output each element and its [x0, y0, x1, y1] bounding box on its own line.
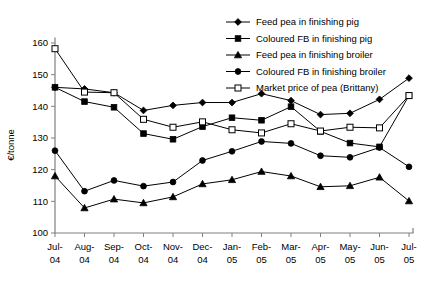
y-tick-label: 100 — [32, 227, 48, 238]
data-point-diamond — [376, 96, 383, 103]
y-tick-label: 150 — [32, 69, 48, 80]
data-point-open-square — [406, 93, 412, 99]
data-point-open-square — [200, 119, 206, 125]
data-point-circle — [141, 183, 147, 189]
line-chart: 100110120130140150160 Jul-04Aug-04Sep-04… — [0, 0, 429, 285]
x-tick-label: Dec-04 — [192, 241, 212, 265]
data-point-square — [229, 115, 235, 121]
data-point-open-square — [82, 89, 88, 95]
series-0 — [52, 75, 413, 118]
data-point-circle — [82, 188, 88, 194]
x-tick-label: May-05 — [339, 241, 360, 265]
y-tick-label: 160 — [32, 37, 48, 48]
x-tick-label: Oct-04 — [135, 241, 153, 265]
data-point-square — [235, 36, 241, 42]
data-point-diamond — [229, 99, 236, 106]
data-point-open-square — [52, 46, 58, 52]
legend-label: Market price of pea (Brittany) — [256, 82, 379, 93]
x-tick-label: Jan-05 — [223, 241, 241, 265]
data-point-open-square — [318, 128, 324, 134]
legend-item-4: Market price of pea (Brittany) — [226, 82, 379, 93]
legend-label: Feed pea in finishing broiler — [256, 49, 373, 60]
data-point-triangle — [110, 196, 117, 202]
data-point-circle — [259, 139, 265, 145]
data-point-triangle — [51, 172, 58, 178]
y-axis-title: €/tonne — [5, 129, 16, 161]
series-2 — [51, 168, 412, 211]
x-tick-label: Apr-05 — [312, 241, 330, 265]
data-point-open-square — [141, 116, 147, 122]
y-tick-label: 130 — [32, 132, 48, 143]
data-point-circle — [318, 153, 324, 159]
data-point-open-square — [259, 130, 265, 136]
x-tick-label: Jul-04 — [47, 241, 62, 265]
data-point-circle — [229, 148, 235, 154]
data-point-circle — [200, 158, 206, 164]
data-point-triangle — [169, 193, 176, 199]
data-point-diamond — [170, 102, 177, 109]
legend-label: Feed pea in finishing pig — [256, 16, 359, 27]
legend-item-1: Coloured FB in finishing pig — [226, 33, 372, 44]
x-tick-label: Jul-05 — [401, 241, 416, 265]
data-point-square — [111, 104, 117, 110]
x-tick-label: Sep-04 — [104, 241, 124, 265]
legend-item-0: Feed pea in finishing pig — [226, 16, 359, 27]
data-point-diamond — [199, 99, 206, 106]
y-tick-label: 140 — [32, 101, 48, 112]
data-point-square — [52, 85, 58, 91]
legend-label: Coloured FB in finishing pig — [256, 33, 372, 44]
data-point-open-square — [235, 85, 241, 91]
data-point-diamond — [317, 111, 324, 118]
x-tick-label: Nov-04 — [163, 241, 183, 265]
legend-label: Coloured FB in finishing broiler — [256, 66, 386, 77]
data-point-square — [288, 104, 294, 110]
data-point-open-square — [111, 90, 117, 96]
data-point-square — [347, 140, 353, 146]
data-point-open-square — [170, 124, 176, 130]
data-point-diamond — [140, 107, 147, 114]
data-point-circle — [377, 145, 383, 151]
data-point-square — [170, 136, 176, 142]
data-point-open-square — [377, 125, 383, 131]
series-3 — [52, 139, 412, 195]
data-point-circle — [288, 140, 294, 146]
data-point-triangle — [258, 168, 265, 174]
data-point-circle — [406, 164, 412, 170]
data-point-square — [141, 131, 147, 137]
data-point-square — [259, 117, 265, 123]
legend-item-2: Feed pea in finishing broiler — [226, 49, 373, 60]
data-point-diamond — [288, 97, 295, 104]
data-point-diamond — [235, 19, 242, 26]
x-tick-label: Aug-04 — [74, 241, 94, 265]
data-point-circle — [52, 148, 58, 154]
x-tick-label: Jun-05 — [370, 241, 388, 265]
x-tick-label: Mar-05 — [281, 241, 301, 265]
data-point-diamond — [406, 75, 413, 82]
data-point-diamond — [347, 110, 354, 117]
chart-canvas: 100110120130140150160 Jul-04Aug-04Sep-04… — [0, 0, 429, 285]
x-tick-label: Feb-05 — [252, 241, 272, 265]
legend-item-3: Coloured FB in finishing broiler — [226, 66, 386, 77]
y-axis-ticks: 100110120130140150160 — [32, 37, 55, 238]
chart-legend: Feed pea in finishing pigColoured FB in … — [226, 16, 386, 93]
series-1 — [52, 85, 412, 150]
data-point-open-square — [229, 127, 235, 133]
data-point-circle — [111, 178, 117, 184]
y-tick-label: 120 — [32, 164, 48, 175]
data-point-circle — [235, 69, 241, 75]
y-tick-label: 110 — [33, 196, 48, 207]
x-axis-ticks: Jul-04Aug-04Sep-04Oct-04Nov-04Dec-04Jan-… — [47, 233, 416, 265]
data-point-open-square — [347, 124, 353, 130]
data-point-square — [82, 99, 88, 105]
data-point-circle — [347, 154, 353, 160]
data-point-circle — [170, 179, 176, 185]
data-point-open-square — [288, 121, 294, 127]
data-point-triangle — [376, 174, 383, 180]
